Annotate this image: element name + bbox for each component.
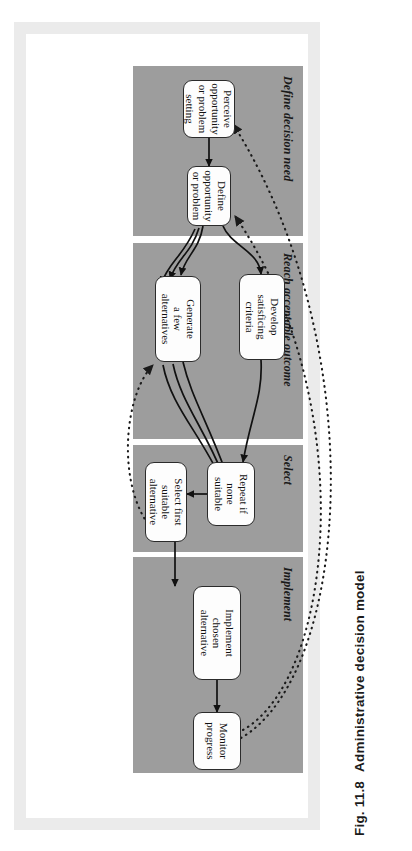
node-perceive-opportunity-or-problem-setting[interactable]: Perceive opportunity or problem setting <box>183 80 235 138</box>
node-line: chosen <box>211 609 224 657</box>
node-develop-satisficing-criteria[interactable]: Develop satisficing criteria <box>239 274 285 360</box>
node-line: Develop <box>268 294 281 339</box>
node-line: Define <box>215 170 228 221</box>
node-line: Implement <box>223 609 236 657</box>
node-line: Select first <box>172 478 185 525</box>
node-monitor-progress[interactable]: Monitor progress <box>193 712 241 770</box>
node-line: progress <box>204 722 217 759</box>
figure-page: Define decision need Reach acceptable ou… <box>0 0 412 851</box>
stage-label-define-decision-need: Define decision need <box>280 76 295 181</box>
node-line: suitable <box>212 474 225 514</box>
node-line: alternative <box>198 609 211 657</box>
figure-caption: Fig. 11.8Administrative decision model <box>352 570 367 836</box>
stage-label-implement: Implement <box>280 567 295 621</box>
figure-caption-title: Administrative decision model <box>352 570 367 772</box>
node-line: setting <box>184 83 197 134</box>
node-line: a few <box>172 294 185 345</box>
node-select-first-suitable-alternative[interactable]: Select first suitable alternative <box>145 462 187 542</box>
stage-label-select: Select <box>280 455 295 485</box>
node-line: suitable <box>160 478 173 525</box>
node-line: or problem <box>196 83 209 134</box>
node-repeat-if-none-suitable[interactable]: Repeat if none suitable <box>207 462 255 526</box>
diagram-rotation-wrapper: Define decision need Reach acceptable ou… <box>133 66 303 773</box>
node-line: opportunity <box>203 170 216 221</box>
node-line: none <box>225 474 238 514</box>
node-line: Repeat if <box>237 474 250 514</box>
node-line: opportunity <box>209 83 222 134</box>
node-implement-chosen-alternative[interactable]: Implement chosen alternative <box>193 586 241 680</box>
node-generate-a-few-alternatives[interactable]: Generate a few alternatives <box>155 276 201 362</box>
node-line: or problem <box>190 170 203 221</box>
administrative-decision-model-diagram: Define decision need Reach acceptable ou… <box>133 66 303 773</box>
node-line: satisficing <box>256 294 269 339</box>
node-line: Perceive <box>222 83 235 134</box>
node-line: alternative <box>147 478 160 525</box>
node-line: Monitor <box>217 722 230 759</box>
figure-caption-number: Fig. 11.8 <box>352 781 367 836</box>
node-line: alternatives <box>159 294 172 345</box>
node-define-opportunity-or-problem[interactable]: Define opportunity or problem <box>187 166 231 226</box>
node-line: criteria <box>243 294 256 339</box>
node-line: Generate <box>184 294 197 345</box>
